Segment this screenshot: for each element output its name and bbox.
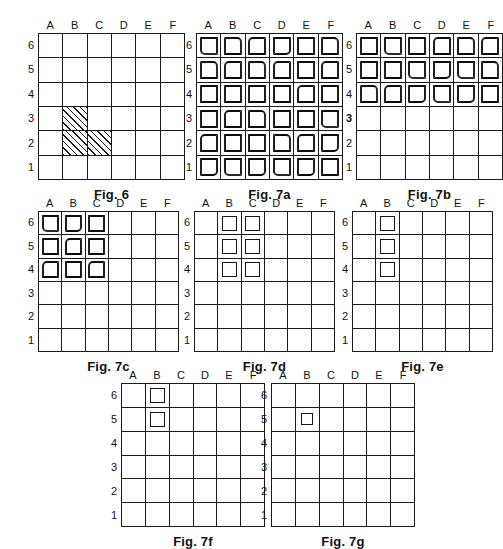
grid-cell-f3 [391,456,415,480]
grid-cell-e6 [367,384,391,408]
row-label-4: 4 [20,258,38,282]
column-label-a: A [38,18,63,33]
row-label-1: 1 [176,329,194,353]
grid-cell-d3 [270,107,294,131]
figure-caption: Fig. 7f [121,534,265,549]
cell-marker-square [321,37,339,55]
grid-cell-d4 [109,259,132,282]
grid-cell-a3 [353,282,376,305]
grid-cell-a1 [353,329,376,352]
cell-marker-square [245,216,260,231]
grid-cell-a5 [39,58,63,82]
grid-cell-b1 [62,329,85,352]
row-label-3: 3 [103,455,121,479]
grid-cell-b6 [146,384,170,408]
column-label-c: C [241,196,265,211]
column-label-e: E [446,196,470,211]
grid-cell-a6 [39,34,63,58]
row-label-1: 1 [20,156,38,181]
grid-cell-b5 [63,58,87,82]
grid-cell-f1 [391,503,415,527]
column-label-d: D [270,18,295,33]
grid-cell-e5 [367,408,391,432]
figure-caption: Fig. 7g [271,534,415,549]
grid-cell-b1 [296,503,320,527]
grid-cell-d4 [112,83,136,107]
cell-marker-square [65,215,82,232]
grid-cell-a3 [39,107,63,131]
row-label-5: 5 [20,235,38,259]
grid-cell-a4 [39,83,63,107]
grid-cell-e6 [217,384,241,408]
grid-cell-f2 [312,305,335,328]
column-label-b: B [381,18,406,33]
cell-marker-square [222,262,237,277]
grid-cell-a5 [357,58,381,82]
grid-cell-b4 [376,259,399,282]
row-label-6: 6 [334,211,352,235]
grid-cell-c2-hatched [88,131,112,155]
grid-cell-a4 [353,259,376,282]
cell-marker-square [481,37,499,55]
grid-cell-c1 [170,503,194,527]
grid-cell-d5 [270,58,294,82]
grid-cell-b3 [381,107,405,131]
cell-marker-square [248,158,266,176]
row-label-3: 3 [178,107,196,132]
row-label-3: 3 [20,107,38,132]
row-label-6: 6 [103,383,121,407]
column-label-d: D [430,18,455,33]
cell-marker-square [457,85,475,103]
grid-cell-b6 [376,212,399,235]
grid-cell-b6 [218,212,241,235]
grid-cell-d5 [265,235,288,258]
column-label-f: F [312,196,336,211]
row-header-column: 654321 [20,33,38,180]
grid-cell-e2 [217,479,241,503]
cell-marker-square [384,61,402,79]
column-label-d: D [112,18,137,33]
grid-cell-c3 [242,282,265,305]
cell-marker-square [481,85,499,103]
grid-cell-e3 [367,456,391,480]
grid-cell-a6 [357,34,381,58]
grid-cell-e1 [217,503,241,527]
grid-fig-7g [271,383,415,527]
grid-cell-a3 [357,107,381,131]
grid-cell-e6 [446,212,469,235]
grid-cell-c5 [242,235,265,258]
grid-cell-f4 [479,83,503,107]
grid-cell-d2 [423,305,446,328]
grid-cell-e3 [136,107,160,131]
cell-marker-square [297,37,315,55]
grid-cell-b3-hatched [63,107,87,131]
grid-cell-a2 [39,131,63,155]
row-label-6: 6 [176,211,194,235]
cell-marker-square [301,413,313,426]
grid-cell-b1 [146,503,170,527]
cell-marker-square [248,85,266,103]
grid-cell-e1 [288,329,311,352]
cell-marker-square [150,388,165,403]
cell-marker-square [200,134,218,152]
grid-cell-c1 [400,329,423,352]
column-label-a: A [356,18,381,33]
grid-cell-a5 [197,58,221,82]
grid-cell-a5 [39,235,62,258]
grid-cell-b5 [296,408,320,432]
column-label-b: B [63,18,88,33]
column-label-c: C [399,196,423,211]
column-label-e: E [454,18,479,33]
grid-fig-7a [196,33,343,180]
grid-cell-c6 [88,34,112,58]
grid-cell-e6 [136,34,160,58]
cell-marker-square [88,238,105,255]
cell-marker-square [65,261,82,278]
cell-marker-square [200,158,218,176]
column-label-e: E [294,18,319,33]
row-header-column: 654321 [176,211,194,352]
grid-cell-c2 [320,479,344,503]
grid-cell-e3 [446,282,469,305]
grid-cell-a1 [39,329,62,352]
grid-cell-c3 [400,282,423,305]
